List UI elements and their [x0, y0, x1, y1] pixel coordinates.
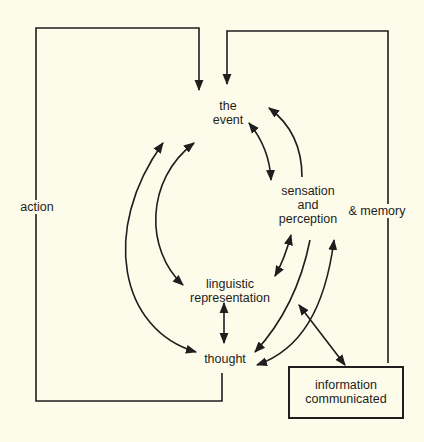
node-information-text: information communicated [290, 378, 402, 406]
node-information-line1: information [290, 378, 402, 392]
node-sensation-perception: sensation and perception [260, 184, 356, 226]
node-sensation-line2: and [260, 198, 356, 212]
linguistic-event-arrow [156, 143, 194, 285]
node-linguistic-representation: linguistic representation [180, 277, 280, 305]
sensation-linguistic-arrow [275, 235, 291, 276]
node-linguistic-line1: linguistic [180, 277, 280, 291]
information-arrow [299, 305, 345, 365]
event-sensation-arrow [249, 123, 271, 180]
node-event: the event [196, 99, 260, 127]
node-event-line2: event [196, 113, 260, 127]
node-linguistic-line2: representation [180, 291, 280, 305]
node-information-line2: communicated [290, 392, 402, 406]
sensation-event-arrow [269, 108, 302, 177]
node-event-line1: the [196, 99, 260, 113]
node-sensation-line3: perception [260, 212, 356, 226]
node-thought: thought [190, 352, 260, 366]
node-sensation-line1: sensation [260, 184, 356, 198]
node-information-communicated-box: information communicated [288, 366, 404, 419]
edge-label-action: action [18, 200, 56, 214]
thought-event-outer-arrow [126, 143, 196, 352]
edge-label-memory: & memory [344, 204, 410, 218]
